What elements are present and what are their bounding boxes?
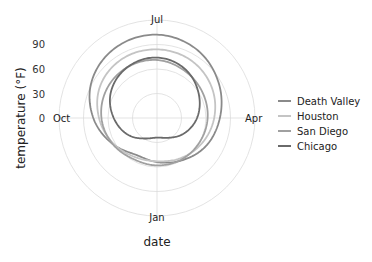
x-axis-title: date bbox=[143, 235, 170, 249]
legend-label-san-diego: San Diego bbox=[297, 126, 348, 137]
month-label-jan: Jan bbox=[148, 212, 164, 223]
tick-90: 90 bbox=[32, 39, 45, 50]
month-label-apr: Apr bbox=[245, 113, 263, 124]
data-series bbox=[90, 35, 222, 166]
tick-0: 0 bbox=[39, 113, 45, 124]
legend-label-death-valley: Death Valley bbox=[297, 96, 360, 107]
series-line-chicago bbox=[110, 58, 200, 139]
legend: Death Valley Houston San Diego Chicago bbox=[278, 96, 360, 152]
legend-label-houston: Houston bbox=[297, 111, 339, 122]
tick-30: 30 bbox=[32, 89, 45, 100]
month-label-jul: Jul bbox=[150, 14, 163, 25]
polar-temperature-chart: Jul Jan Oct Apr 0 30 60 90 temperature (… bbox=[0, 0, 372, 262]
tick-60: 60 bbox=[32, 64, 45, 75]
month-label-oct: Oct bbox=[53, 113, 70, 124]
y-axis-title: temperature (°F) bbox=[14, 67, 28, 169]
legend-label-chicago: Chicago bbox=[297, 141, 337, 152]
